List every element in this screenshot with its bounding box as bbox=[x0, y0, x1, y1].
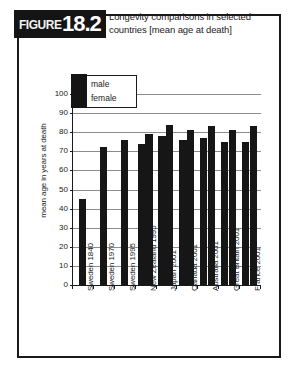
bar-male bbox=[138, 144, 145, 285]
y-tick-label: 70 bbox=[46, 147, 68, 155]
bar-male bbox=[121, 140, 128, 285]
bar-group: Sweden 1995 bbox=[114, 94, 135, 285]
y-tick-label: 20 bbox=[46, 243, 68, 251]
chart-legend: male female bbox=[79, 75, 137, 108]
x-tick-mark bbox=[72, 285, 73, 289]
y-tick-label: 80 bbox=[46, 128, 68, 136]
bar-male bbox=[100, 147, 107, 285]
figure-card: FIGURE 18.2 Longevity comparisons in sel… bbox=[17, 14, 281, 358]
bar-group: Sweden 1840 bbox=[72, 94, 93, 285]
bar-group: Great Britain 2001 bbox=[218, 94, 239, 285]
x-axis-label: France 2001 bbox=[253, 247, 262, 291]
bar-group: New Zealand 1995 bbox=[135, 94, 156, 285]
bar-male bbox=[221, 142, 228, 285]
legend-swatch-block bbox=[71, 74, 87, 108]
bar-male bbox=[179, 140, 186, 285]
chart-plot-area: mean age in years at death 0102030405060… bbox=[19, 16, 283, 360]
bar-group: France 2001 bbox=[239, 94, 260, 285]
bar-group: Sweden 1970 bbox=[93, 94, 114, 285]
legend-item-female: female bbox=[91, 94, 117, 103]
y-tick-label: 60 bbox=[46, 166, 68, 174]
legend-item-male: male bbox=[91, 80, 109, 89]
bar-male bbox=[79, 199, 86, 285]
bar-male bbox=[242, 142, 249, 285]
bar-male bbox=[200, 138, 207, 285]
bar-male bbox=[158, 136, 165, 285]
bar-group: Australia 2001 bbox=[197, 94, 218, 285]
y-tick-label: 100 bbox=[46, 90, 68, 98]
y-tick-label: 0 bbox=[46, 281, 68, 289]
y-tick-label: 30 bbox=[46, 224, 68, 232]
bar-group: Japan 2001 bbox=[156, 94, 177, 285]
bar-group: Canada 2001 bbox=[176, 94, 197, 285]
chart-bars: Sweden 1840Sweden 1970Sweden 1995New Zea… bbox=[72, 94, 260, 285]
y-tick-label: 50 bbox=[46, 186, 68, 194]
y-tick-label: 90 bbox=[46, 109, 68, 117]
y-tick-label: 40 bbox=[46, 205, 68, 213]
y-tick-label: 10 bbox=[46, 262, 68, 270]
